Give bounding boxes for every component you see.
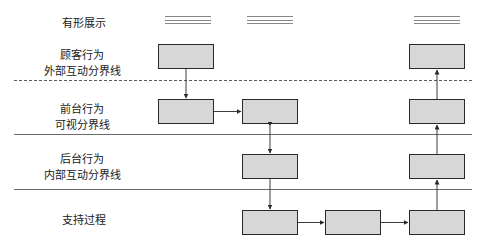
flow-arrows [0, 0, 481, 249]
service-blueprint-diagram: 有形展示 顾客行为 外部互动分界线 前台行为 可视分界线 后台行为 内部互动分界… [0, 0, 481, 249]
